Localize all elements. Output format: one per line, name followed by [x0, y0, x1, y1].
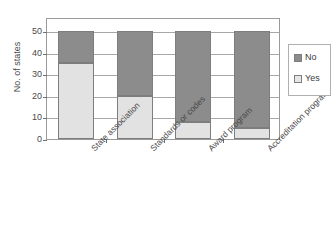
stacked-bar-chart: No. of states 01020304050 State associat…: [0, 0, 335, 232]
y-tick-label: 50: [22, 27, 42, 36]
x-axis-category-labels: State associationStandards or codesAward…: [0, 140, 335, 232]
x-axis-label: Standards or codes: [148, 146, 155, 153]
x-axis-label: Award program: [206, 146, 213, 153]
legend-item: No: [294, 53, 317, 62]
y-tick-label: 10: [22, 113, 42, 122]
legend-label: No: [305, 53, 317, 62]
legend: NoYes: [288, 44, 331, 96]
legend-swatch-no: [294, 54, 302, 62]
bar-segment-no: [58, 31, 94, 63]
bar-stack: [58, 17, 94, 139]
x-axis-label: Accreditation program: [265, 146, 272, 153]
bar-segment-no: [117, 31, 153, 96]
bar-segment-yes: [234, 128, 270, 139]
legend-item: Yes: [294, 74, 320, 83]
y-tick-label: 20: [22, 92, 42, 101]
plot-area: [46, 18, 280, 140]
y-tick-label: 30: [22, 70, 42, 79]
legend-swatch-yes: [294, 75, 302, 83]
y-tick-label: 40: [22, 49, 42, 58]
bar-segment-yes: [58, 63, 94, 139]
legend-label: Yes: [305, 74, 320, 83]
x-axis-label: State association: [89, 146, 96, 153]
